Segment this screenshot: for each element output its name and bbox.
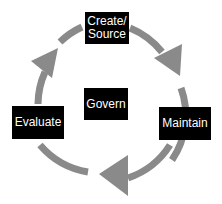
evaluate-label: Evaluate <box>15 116 62 129</box>
stage-create-source: Create/Source <box>85 12 129 44</box>
maintain-label: Maintain <box>162 117 207 130</box>
arc-evaluate-to-create <box>38 72 45 104</box>
govern-label: Govern <box>86 98 125 111</box>
center-govern: Govern <box>84 88 128 120</box>
arrowhead-bottom-icon <box>99 155 128 196</box>
create-label-line2: Source <box>88 27 126 41</box>
arc-create-to-maintain <box>130 28 162 52</box>
stage-create-source-label: Create/Source <box>87 15 126 41</box>
create-label-line1: Create/ <box>87 14 126 28</box>
arc-maintain-to-evaluate <box>128 145 170 178</box>
arc-evaluate-bottom <box>40 145 88 172</box>
stage-maintain: Maintain <box>159 107 211 140</box>
stage-evaluate: Evaluate <box>12 106 64 139</box>
arc-top-left <box>60 27 82 42</box>
lifecycle-diagram: Create/Source Govern Evaluate Maintain <box>0 0 222 204</box>
